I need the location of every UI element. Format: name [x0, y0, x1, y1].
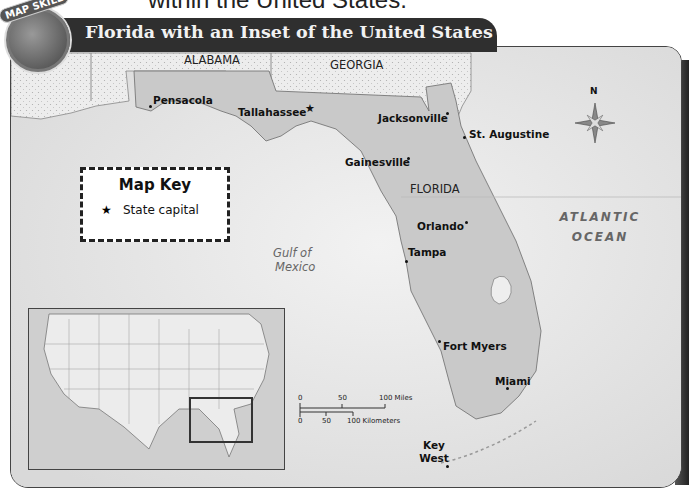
map-key: Map Key ★ State capital	[80, 167, 230, 242]
scale-miles-100: 100 Miles	[379, 394, 412, 402]
city-dot-fort-myers	[438, 340, 441, 343]
compass-north-label: N	[590, 86, 598, 96]
city-label-key-west: Key West	[414, 439, 454, 465]
city-dot-key-west	[446, 465, 449, 468]
compass-rose-icon: N	[572, 92, 618, 148]
scale-bar: 0 50 100 Miles 0 50 100 Kilometers	[295, 395, 445, 435]
map-title: Florida with an Inset of the United Stat…	[85, 22, 493, 42]
map-skill-badge: MAP SKILL	[0, 0, 70, 70]
water-label-gulf-line1: Gulf of	[273, 246, 311, 260]
scale-km-50: 50	[322, 417, 331, 425]
map-key-item-label: State capital	[123, 203, 199, 217]
state-label-alabama: ALABAMA	[184, 53, 240, 67]
city-label-gainesville: Gainesville	[345, 156, 410, 168]
florida-highlight-box	[189, 397, 253, 443]
city-label-miami: Miami	[495, 375, 531, 387]
map-key-title: Map Key	[83, 176, 227, 194]
city-label-pensacola: Pensacola	[153, 94, 213, 106]
page-caption: within the United States.	[148, 0, 407, 14]
city-label-orlando: Orlando	[417, 220, 464, 232]
water-label-ocean-line1: ATLANTIC	[555, 210, 645, 224]
state-capital-star-icon: ★	[101, 203, 112, 217]
us-inset-map	[28, 308, 285, 470]
city-label-tampa: Tampa	[408, 246, 446, 258]
city-label-st-augustine: St. Augustine	[469, 128, 549, 140]
city-label-tallahassee: Tallahassee	[238, 106, 306, 118]
state-label-georgia: GEORGIA	[330, 58, 383, 72]
state-label-florida: FLORIDA	[410, 182, 460, 196]
city-dot-jacksonville	[446, 112, 449, 115]
city-dot-gainesville	[407, 157, 410, 160]
us-outline-graphic	[29, 309, 284, 469]
city-label-jacksonville: Jacksonville	[378, 112, 448, 124]
scale-miles-0: 0	[298, 394, 302, 402]
scale-km-100: 100 Kilometers	[347, 417, 400, 425]
city-dot-miami	[506, 387, 509, 390]
water-label-gulf-line2: Mexico	[275, 260, 315, 274]
city-dot-tampa	[405, 260, 408, 263]
capital-star-icon: ★	[305, 102, 315, 115]
scale-miles-50: 50	[338, 394, 347, 402]
city-label-fort-myers: Fort Myers	[443, 340, 507, 352]
city-dot-st-augustine	[463, 136, 466, 139]
water-label-ocean-line2: OCEAN	[555, 230, 645, 244]
city-dot-orlando	[465, 221, 468, 224]
scale-km-0: 0	[298, 417, 302, 425]
city-dot-pensacola	[149, 105, 152, 108]
